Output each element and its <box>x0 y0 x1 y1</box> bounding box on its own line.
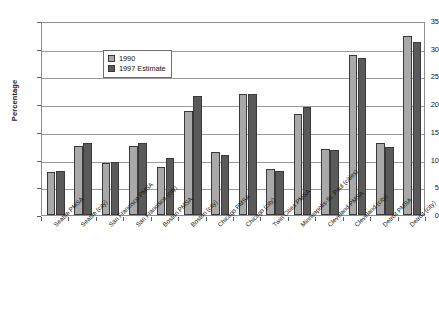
x-tick-mark <box>233 217 234 221</box>
x-tick-mark <box>370 217 371 221</box>
x-tick-mark <box>398 217 399 221</box>
bar-group <box>349 23 367 215</box>
bar-group <box>266 23 284 215</box>
x-tick-mark <box>68 217 69 221</box>
bar-group <box>211 23 229 215</box>
bar-group <box>403 23 421 215</box>
bar-group <box>47 23 65 215</box>
legend-label: 1997 Estimate <box>119 65 166 73</box>
bar-group <box>184 23 202 215</box>
bar <box>83 143 92 215</box>
bar <box>413 42 422 215</box>
bar <box>138 143 147 215</box>
plot-area: 19901997 Estimate <box>41 22 425 216</box>
x-tick-mark <box>315 217 316 221</box>
bar <box>111 162 120 215</box>
bar-group <box>74 23 92 215</box>
bar-group <box>294 23 312 215</box>
x-tick-mark <box>41 217 42 221</box>
x-tick-mark <box>96 217 97 221</box>
bar <box>385 147 394 215</box>
x-tick-mark <box>178 217 179 221</box>
bar-group <box>376 23 394 215</box>
bar <box>275 171 284 215</box>
x-tick-mark <box>151 217 152 221</box>
bar-chart: Percentage 05101520253035 19901997 Estim… <box>0 0 439 310</box>
bar <box>330 150 339 215</box>
legend-label: 1990 <box>119 55 135 63</box>
x-tick-mark <box>288 217 289 221</box>
bar <box>221 155 230 215</box>
chart-legend: 19901997 Estimate <box>103 50 172 78</box>
bar <box>56 171 65 215</box>
bar <box>193 96 202 215</box>
legend-swatch-icon <box>108 55 115 62</box>
x-tick-mark <box>123 217 124 221</box>
bar <box>349 55 358 215</box>
bar <box>47 172 56 215</box>
bar <box>403 36 412 215</box>
bar-group <box>239 23 257 215</box>
legend-item[interactable]: 1990 <box>108 54 166 63</box>
legend-item[interactable]: 1997 Estimate <box>108 64 166 73</box>
bars-layer <box>42 23 424 215</box>
legend-swatch-icon <box>108 65 115 72</box>
x-tick-mark <box>260 217 261 221</box>
x-tick-mark <box>206 217 207 221</box>
x-tick-mark <box>343 217 344 221</box>
y-axis-title: Percentage <box>10 56 19 146</box>
x-tick-mark <box>425 217 426 221</box>
